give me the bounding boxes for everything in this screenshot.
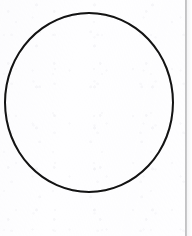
page-edge-rule xyxy=(185,0,187,236)
circle-figure xyxy=(4,12,174,193)
page-edge-band xyxy=(187,0,192,236)
scanned-page: Circle figure xyxy=(0,0,192,236)
